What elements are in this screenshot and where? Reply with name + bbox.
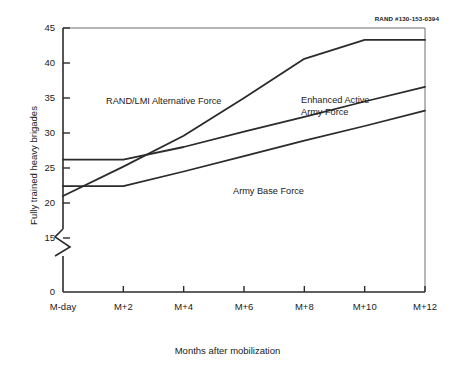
series-line-0 — [63, 40, 425, 196]
series-label-army-base-force: Army Base Force — [233, 186, 304, 198]
series-label-rand-lmi-alternative-force: RAND/LMI Alternative Force — [106, 96, 221, 108]
chart-plot-area — [0, 0, 455, 374]
y-axis-tick-label: 40 — [29, 57, 55, 68]
chart-series-lines — [63, 40, 425, 196]
y-axis-tick-label: 20 — [29, 197, 55, 208]
x-axis-tick-label: M-day — [33, 301, 93, 312]
x-axis-tick-label: M+8 — [274, 301, 334, 312]
y-axis-tick-label: 30 — [29, 127, 55, 138]
chart-figure: RAND #130-153-0394 Fully trained heavy b… — [0, 0, 455, 374]
x-axis-tick-label: M+10 — [335, 301, 395, 312]
x-axis-tick-label: M+2 — [93, 301, 153, 312]
y-axis-tick-label: 25 — [29, 162, 55, 173]
y-axis-tick-label: 35 — [29, 92, 55, 103]
series-label-enhanced-active-army-force: Enhanced Active Army Force — [301, 95, 369, 118]
y-axis-tick-label: 0 — [29, 286, 55, 297]
x-axis-tick-label: M+6 — [214, 301, 274, 312]
x-axis-tick-label: M+4 — [154, 301, 214, 312]
series-line-2 — [63, 111, 425, 187]
y-axis-tick-label: 15 — [29, 232, 55, 243]
y-axis-tick-label: 45 — [29, 22, 55, 33]
y-axis-break-zigzag — [55, 229, 70, 256]
x-axis-tick-label: M+12 — [395, 301, 455, 312]
